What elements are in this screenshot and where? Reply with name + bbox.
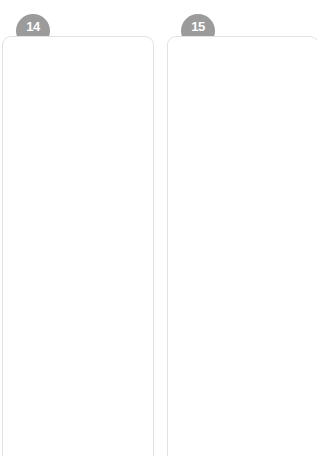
worksheet-page: 14 [0,0,317,464]
exercise-card [167,36,317,456]
exercise-15: 15 [167,36,317,456]
exercise-14: 14 [2,36,154,456]
exercise-card [2,36,154,456]
